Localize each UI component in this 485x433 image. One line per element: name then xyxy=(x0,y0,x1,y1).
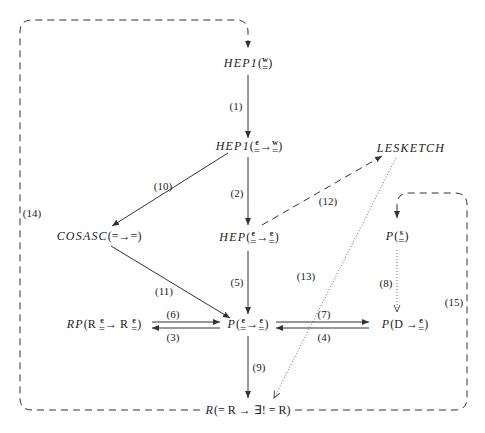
edge-label-2: (2) xyxy=(231,187,244,199)
edge-label-3: (3) xyxy=(167,331,180,343)
edge-label-13: (13) xyxy=(297,270,315,282)
edge-label-8: (8) xyxy=(380,277,393,289)
node-p-ee: P(e=→e=) xyxy=(228,317,269,333)
node-p-d: P(D →e=) xyxy=(382,317,428,333)
edge-label-9: (9) xyxy=(253,361,266,373)
edge-label-12: (12) xyxy=(319,195,337,207)
node-r: R(= R → ∃! = R) xyxy=(202,403,293,417)
node-cosasc: COSASC(=→=) xyxy=(57,229,142,243)
edge-label-11: (11) xyxy=(155,285,173,297)
edge-label-4: (4) xyxy=(318,331,331,343)
edge-label-5: (5) xyxy=(231,276,244,288)
node-hep1-ew: HEP1(e=→w=) xyxy=(216,139,283,155)
edge-label-10: (10) xyxy=(154,180,172,192)
edge-14 xyxy=(20,20,248,410)
edge-13 xyxy=(274,158,396,398)
node-hep-ee: HEP(e=→e=) xyxy=(219,230,278,246)
node-lesketch: LESKETCH xyxy=(377,141,445,155)
edge-label-6: (6) xyxy=(167,308,180,320)
node-hep1-w: HEP1(w=) xyxy=(224,56,272,72)
node-rp: RP(R e=→ R e=) xyxy=(67,317,142,333)
node-p-s: P(s=) xyxy=(386,229,409,245)
edge-12 xyxy=(262,156,382,225)
edge-label-7: (7) xyxy=(318,308,331,320)
edge-label-1: (1) xyxy=(230,100,243,112)
edge-label-15: (15) xyxy=(445,296,463,308)
edge-15 xyxy=(295,193,467,410)
edge-label-14: (14) xyxy=(23,207,41,219)
